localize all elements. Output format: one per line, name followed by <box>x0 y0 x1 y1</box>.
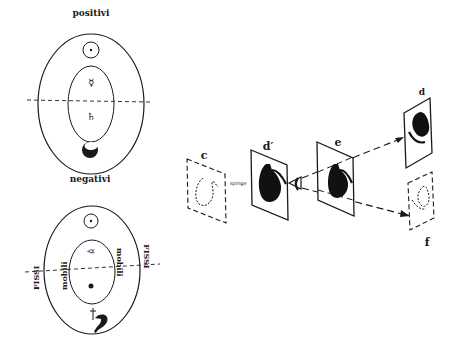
mercury-icon: ☿ <box>88 77 94 88</box>
saturn-icon <box>90 308 108 333</box>
label-spinge: spinge <box>230 180 247 187</box>
panel-c: c <box>187 149 226 223</box>
panel-label-d-prime: d′ <box>263 140 274 153</box>
label-fissi-right: FISSI <box>142 244 152 269</box>
panel-d-prime: d′ <box>251 140 288 220</box>
label-negativi: negativi <box>70 174 111 184</box>
label-positivi: positivi <box>72 8 110 18</box>
projection-diagram: c spinge d′ e <box>187 87 434 249</box>
eye-icon <box>289 177 301 190</box>
panel-f: f <box>408 172 434 249</box>
sun-icon <box>84 214 98 228</box>
mercury-icon: ☿ <box>86 248 96 254</box>
arrowhead-upper <box>395 137 404 143</box>
dot-icon <box>89 284 94 289</box>
panel-d: d <box>404 87 432 168</box>
panel-e: e <box>317 136 354 216</box>
label-fissi-left: FISSI <box>31 265 41 290</box>
panel-label-e: e <box>335 136 342 149</box>
label-mobili-left: mobili <box>59 261 69 290</box>
panel-label-d: d <box>419 87 426 97</box>
panel-label-c: c <box>201 149 208 162</box>
arrowhead-lower <box>400 210 410 217</box>
horizon-dashed-line <box>27 100 150 102</box>
ellipse-diagram-bottom: ☿ FISSI mobili mobili FISSI <box>25 206 160 334</box>
moon-icon <box>82 142 98 158</box>
saturn-icon: ♄ <box>87 111 96 122</box>
sun-icon <box>83 42 99 58</box>
label-mobili-right: mobili <box>115 248 125 277</box>
ellipse-diagram-top: ☿ ♄ positivi negativi <box>27 8 150 184</box>
panel-label-f: f <box>425 236 431 249</box>
diagram-canvas: ☿ ♄ positivi negativi ☿ FISSI mobili mob… <box>0 0 455 352</box>
